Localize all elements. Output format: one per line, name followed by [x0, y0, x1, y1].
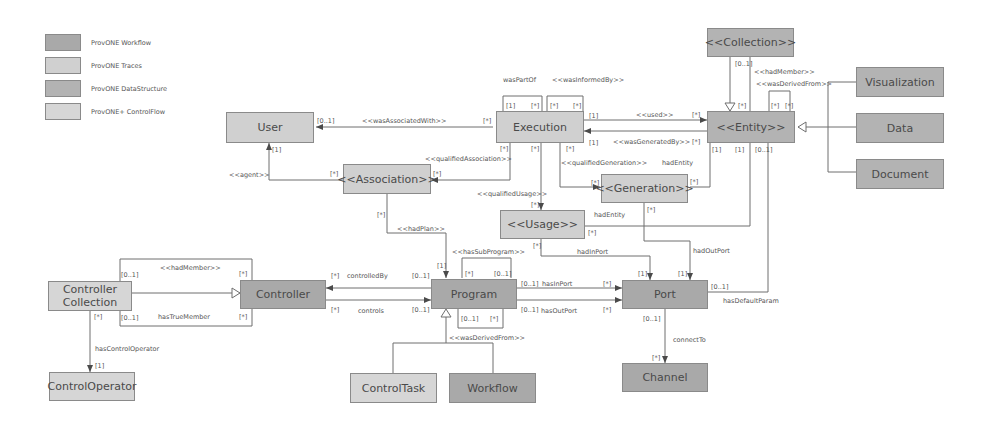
- label-had-in-port: hadInPort: [577, 248, 608, 256]
- legend-label: ProvONE Traces: [91, 62, 142, 70]
- label-has-in-port: hasInPort: [542, 280, 572, 288]
- node-entity[interactable]: <<Entity>>: [707, 111, 795, 143]
- node-document[interactable]: Document: [856, 159, 944, 189]
- mult-entity-derived-1: [*]: [771, 102, 779, 110]
- legend-swatch: [45, 80, 81, 97]
- label-controls: controls: [358, 307, 384, 315]
- node-label: Channel: [642, 371, 687, 384]
- node-control-task[interactable]: ControlTask: [350, 373, 437, 403]
- legend-workflow: ProvONE Workflow: [45, 34, 151, 51]
- mult-port-default: [0..1]: [711, 283, 728, 291]
- mult-program-controls: [0..1]: [412, 306, 429, 314]
- mult-entity-gen: [*]: [692, 138, 700, 146]
- mult-port-hip: [1]: [638, 270, 647, 278]
- mult-channel-connect: [*]: [652, 354, 660, 362]
- node-label: Data: [887, 122, 913, 135]
- mult-ctrl-member: [*]: [239, 270, 247, 278]
- mult-program-sub-2: [0..1]: [494, 270, 511, 278]
- mult-exec-gen: [1]: [589, 139, 598, 147]
- mult-usage-hip: [*]: [533, 242, 541, 250]
- label-has-default-param: hasDefaultParam: [723, 297, 779, 305]
- node-association[interactable]: <<Association>>: [343, 164, 431, 194]
- mult-informed-1: [*]: [550, 102, 558, 110]
- node-label: Workflow: [467, 382, 518, 395]
- mult-cc-member: [0..1]: [121, 271, 138, 279]
- mult-exec-qa: [*]: [500, 145, 508, 153]
- label-had-plan: <<hadPlan>>: [397, 225, 445, 233]
- legend-swatch: [45, 57, 81, 74]
- mult-port-inport: [*]: [603, 280, 611, 288]
- mult-program-derived-2: [*]: [490, 315, 498, 323]
- node-execution[interactable]: Execution: [496, 111, 584, 143]
- node-label: Visualization: [865, 76, 934, 89]
- node-label: ControlTask: [362, 382, 426, 395]
- node-label: ControlOperator: [48, 380, 137, 393]
- mult-gen-hop: [*]: [647, 206, 655, 214]
- mult-program-derived-1: [0..1]: [461, 315, 478, 323]
- mult-controller-controls: [*]: [331, 306, 339, 314]
- label-has-sub-program: <<hasSubProgram>>: [452, 248, 525, 256]
- label-qualified-usage: <<qualifiedUsage>>: [477, 190, 547, 198]
- node-label: <<Entity>>: [717, 121, 786, 134]
- mult-partof-1: [1]: [506, 102, 515, 110]
- label-had-entity-usage: hadEntity: [594, 211, 625, 219]
- mult-program-by: [0..1]: [412, 272, 429, 280]
- node-port[interactable]: Port: [622, 280, 708, 309]
- mult-collection: [0..1]: [735, 60, 752, 68]
- mult-controller-by: [*]: [331, 272, 339, 280]
- node-label: <<Usage>>: [507, 218, 578, 231]
- mult-informed-2: [*]: [573, 102, 581, 110]
- mult-exec-assoc: [*]: [483, 117, 491, 125]
- mult-port-outport: [*]: [603, 306, 611, 314]
- mult-op: [1]: [95, 362, 104, 370]
- label-was-part-of: wasPartOf: [503, 76, 536, 84]
- mult-port-hop: [1]: [678, 270, 687, 278]
- mult-usage-qu: [*]: [531, 201, 539, 209]
- node-channel[interactable]: Channel: [622, 363, 708, 392]
- mult-entity-1b: [1]: [735, 146, 744, 154]
- node-workflow[interactable]: Workflow: [449, 373, 536, 403]
- node-label: Execution: [513, 121, 567, 134]
- node-label: Document: [872, 168, 929, 181]
- node-collection[interactable]: <<Collection>>: [707, 28, 794, 57]
- node-label: Controller Collection: [49, 283, 131, 309]
- mult-exec-qg: [*]: [566, 145, 574, 153]
- node-visualization[interactable]: Visualization: [856, 67, 944, 97]
- mult-exec-qu: [*]: [531, 145, 539, 153]
- node-label: Program: [451, 288, 497, 301]
- mult-entity-used: [*]: [692, 111, 700, 119]
- connector-lines: [0, 0, 983, 425]
- node-controller[interactable]: Controller: [240, 280, 326, 309]
- mult-ctrl-true: [*]: [239, 313, 247, 321]
- label-has-out-port: hasOutPort: [541, 307, 577, 315]
- node-usage[interactable]: <<Usage>>: [500, 210, 585, 239]
- node-controller-collection[interactable]: Controller Collection: [48, 281, 132, 311]
- mult-program-plan: [1]: [437, 262, 446, 270]
- mult-entity-1a: [1]: [712, 146, 721, 154]
- legend-label: ProvONE Workflow: [91, 39, 151, 47]
- node-user[interactable]: User: [226, 112, 314, 143]
- legend-controlflow: ProvONE+ ControlFlow: [45, 103, 165, 120]
- legend-traces: ProvONE Traces: [45, 57, 142, 74]
- label-was-generated-by: <<wasGeneratedBy>>: [613, 138, 690, 146]
- label-was-associated-with: <<wasAssociatedWith>>: [362, 117, 446, 125]
- mult-gen-qg: [*]: [591, 179, 599, 187]
- legend-swatch: [45, 34, 81, 51]
- node-program[interactable]: Program: [431, 279, 517, 309]
- mult-assoc-plan: [*]: [377, 211, 385, 219]
- mult-user-agent: [1]: [272, 146, 281, 154]
- node-control-operator[interactable]: ControlOperator: [49, 372, 135, 401]
- node-label: <<Association>>: [337, 173, 437, 186]
- mult-program-outport: [0..1]: [521, 306, 538, 314]
- label-was-derived-from-entity: <<wasDerivedFrom>>: [756, 80, 832, 88]
- label-had-entity-generation: hadEntity: [662, 159, 693, 167]
- node-label: <<Collection>>: [705, 36, 796, 49]
- mult-program-sub-1: [*]: [465, 270, 473, 278]
- node-label: Port: [654, 288, 676, 301]
- node-data[interactable]: Data: [856, 113, 944, 143]
- node-generation[interactable]: <<Generation>>: [601, 174, 688, 203]
- label-controlled-by: controlledBy: [347, 272, 388, 280]
- mult-port-connect: [0..1]: [643, 315, 660, 323]
- mult-assoc-qa: [*]: [433, 170, 441, 178]
- node-label: <<Generation>>: [595, 182, 693, 195]
